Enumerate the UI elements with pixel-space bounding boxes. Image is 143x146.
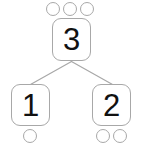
part-right-counter-group (96, 129, 127, 143)
part-left-counter-group (23, 129, 37, 143)
part-node-value-right: 2 (103, 89, 120, 120)
counter-circle-icon (63, 2, 77, 16)
number-bond-diagram: 3 1 2 (0, 0, 143, 146)
part-node-box-right[interactable]: 2 (92, 84, 131, 126)
counter-circle-icon (80, 2, 94, 16)
whole-node-value: 3 (63, 24, 80, 55)
connector-whole-to-right (72, 62, 113, 85)
part-node-box-left[interactable]: 1 (11, 84, 50, 126)
part-node-value-left: 1 (22, 89, 39, 120)
counter-circle-icon (113, 129, 127, 143)
whole-node-box[interactable]: 3 (52, 18, 91, 61)
connector-whole-to-left (31, 62, 72, 85)
counter-circle-icon (96, 129, 110, 143)
whole-counter-group (46, 2, 94, 16)
counter-circle-icon (46, 2, 60, 16)
counter-circle-icon (23, 129, 37, 143)
